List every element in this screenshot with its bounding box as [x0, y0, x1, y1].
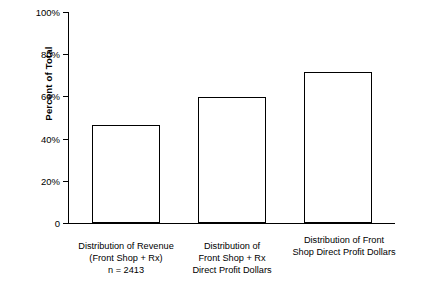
x-label-line3: Direct Profit Dollars — [168, 264, 296, 276]
y-tick-label: 80% — [41, 49, 60, 60]
plot-area: 100% 80% 60% 40% 20% 0 Distribution of R… — [68, 12, 395, 224]
y-tick-mark — [63, 54, 68, 55]
bar-chart: Percent of Total 100% 80% 60% 40% 20% 0 — [0, 0, 422, 282]
x-label-line2: Shop Direct Profit Dollars — [274, 246, 414, 258]
x-axis-line — [68, 223, 395, 224]
bar-front-shop-rx-direct-profit — [198, 97, 266, 223]
bar-distribution-of-revenue — [92, 125, 160, 223]
y-tick-label: 60% — [41, 91, 60, 102]
y-axis-line — [68, 12, 69, 224]
y-tick-mark — [63, 139, 68, 140]
y-tick-label: 100% — [36, 7, 60, 18]
x-label-line1: Distribution of Front — [274, 234, 414, 246]
y-tick-label: 0 — [55, 218, 60, 229]
bar-front-shop-direct-profit — [304, 72, 372, 223]
y-tick-mark — [63, 12, 68, 13]
y-tick-mark — [63, 96, 68, 97]
x-label-2: Distribution of Front Shop Direct Profit… — [274, 234, 414, 258]
y-tick-mark — [63, 181, 68, 182]
y-tick-label: 40% — [41, 133, 60, 144]
y-tick-label: 20% — [41, 175, 60, 186]
y-tick-mark — [63, 223, 68, 224]
